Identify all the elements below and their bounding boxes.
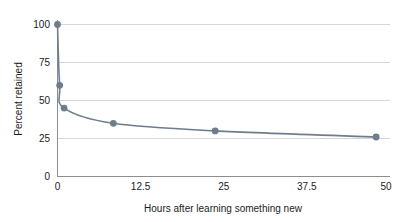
x-axis-title: Hours after learning something new xyxy=(144,203,303,214)
y-tick-label-0: 0 xyxy=(44,171,50,182)
data-point-0 xyxy=(54,21,61,28)
data-point-3 xyxy=(110,120,117,127)
x-tick-label-25: 25 xyxy=(218,181,230,192)
chart-container: 100 75 50 25 0 0 12.5 25 37.5 50 Hours a… xyxy=(0,0,403,222)
forgetting-curve-chart: 100 75 50 25 0 0 12.5 25 37.5 50 Hours a… xyxy=(0,0,403,222)
y-tick-label-100: 100 xyxy=(33,19,50,30)
y-tick-label-75: 75 xyxy=(39,57,51,68)
data-point-1 xyxy=(56,82,63,89)
x-tick-label-50: 50 xyxy=(380,181,392,192)
x-tick-label-37-5: 37.5 xyxy=(297,181,317,192)
y-axis-title: Percent retained xyxy=(13,62,24,135)
data-point-2 xyxy=(61,105,68,112)
data-point-4 xyxy=(212,127,219,134)
x-tick-label-0: 0 xyxy=(55,181,61,192)
x-tick-label-12-5: 12.5 xyxy=(131,181,151,192)
data-point-5 xyxy=(373,134,380,141)
chart-background xyxy=(0,0,403,222)
y-tick-label-25: 25 xyxy=(39,133,51,144)
y-tick-label-50: 50 xyxy=(39,95,51,106)
